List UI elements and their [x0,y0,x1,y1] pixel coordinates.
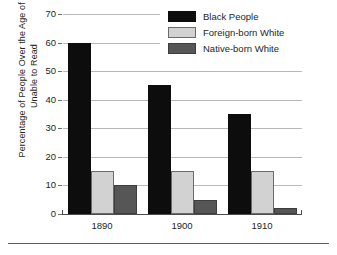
bar [171,171,194,214]
y-axis-title-line-1: Percentage of People Over the Age of 9 [16,0,28,157]
legend-swatch-icon [168,27,196,38]
y-axis-tick-label: 30 [30,123,56,133]
gridline [62,128,302,129]
x-axis-right-cap [301,210,302,215]
y-axis-tick-labels: 010203040506070 [28,14,56,214]
legend-item-label: Black People [203,11,258,22]
legend-swatch-icon [168,43,196,54]
x-axis-line [62,214,302,215]
legend-item-label: Native-born White [203,43,279,54]
bar [228,114,251,214]
legend-swatch-icon [168,11,196,22]
y-axis-line [62,14,63,214]
y-axis-tick-label: 70 [30,9,56,19]
bar [251,171,274,214]
bar [194,200,217,214]
legend-item: Black People [168,9,328,23]
legend-item: Native-born White [168,41,328,55]
y-axis-tick-label: 60 [30,38,56,48]
bar [148,85,171,214]
gridline [62,157,302,158]
legend-item-label: Foreign-born White [203,27,284,38]
bar [68,43,91,214]
x-axis-tick-label: 1890 [62,220,142,232]
x-axis-left-cap [62,210,63,215]
gridline [62,71,302,72]
bottom-divider [8,243,329,244]
gridline [62,100,302,101]
bar [114,185,137,214]
legend-item: Foreign-born White [168,25,328,39]
x-axis-tick-label: 1910 [222,220,302,232]
x-axis-tick-labels: 189019001910 [62,220,302,234]
bar-chart: Percentage of People Over the Age of 9 U… [0,0,337,255]
y-axis-tick-label: 40 [30,95,56,105]
y-axis-tick-label: 0 [30,209,56,219]
legend: Black PeopleForeign-born WhiteNative-bor… [168,9,328,57]
bar [91,171,114,214]
x-axis-tick-label: 1900 [142,220,222,232]
y-axis-tick-label: 10 [30,180,56,190]
y-axis-tick-label: 20 [30,152,56,162]
y-axis-tick-label: 50 [30,66,56,76]
